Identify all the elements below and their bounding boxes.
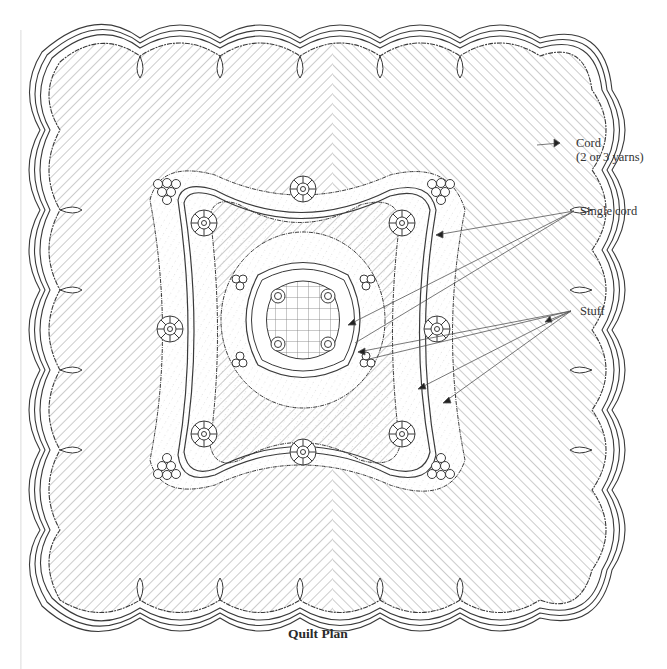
central-medallion bbox=[221, 232, 385, 408]
diagram-caption: Quilt Plan bbox=[288, 626, 348, 642]
quilt-plan-diagram bbox=[0, 0, 667, 669]
cord-label-line1: Cord bbox=[576, 136, 644, 150]
stuff-label: Stuff bbox=[580, 304, 605, 318]
cord-label: Cord (2 or 3 yarns) bbox=[576, 136, 644, 164]
cord-label-line2: (2 or 3 yarns) bbox=[576, 150, 644, 164]
single-cord-label: Single cord bbox=[580, 204, 637, 218]
